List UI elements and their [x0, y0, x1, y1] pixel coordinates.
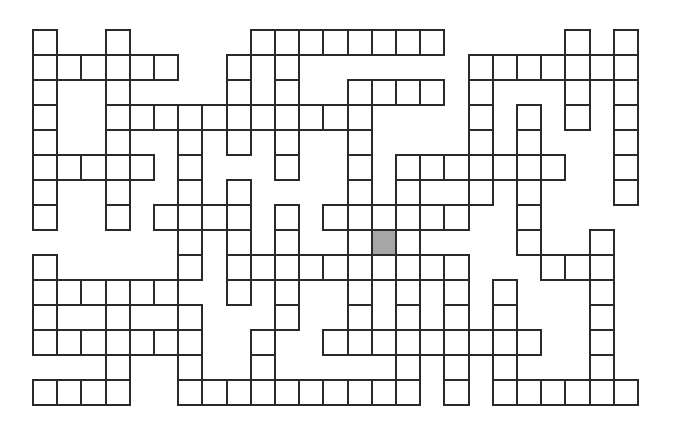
grid-cell[interactable] [613, 154, 639, 181]
grid-cell[interactable] [419, 29, 445, 56]
grid-cell[interactable] [395, 304, 421, 331]
grid-cell[interactable] [32, 379, 58, 406]
grid-cell[interactable] [274, 254, 300, 281]
grid-cell[interactable] [177, 229, 203, 256]
grid-cell[interactable] [347, 254, 373, 281]
grid-cell[interactable] [468, 129, 494, 156]
grid-cell[interactable] [443, 329, 469, 356]
grid-cell[interactable] [56, 379, 82, 406]
grid-cell[interactable] [443, 379, 469, 406]
grid-cell[interactable] [492, 154, 518, 181]
grid-cell[interactable] [298, 29, 324, 56]
grid-cell[interactable] [226, 104, 252, 131]
grid-cell[interactable] [226, 54, 252, 81]
grid-cell[interactable] [516, 129, 542, 156]
grid-cell[interactable] [105, 354, 131, 381]
grid-cell[interactable] [226, 279, 252, 306]
grid-cell[interactable] [105, 104, 131, 131]
grid-cell[interactable] [129, 329, 155, 356]
grid-cell[interactable] [201, 204, 227, 231]
grid-cell[interactable] [322, 204, 348, 231]
grid-cell[interactable] [177, 104, 203, 131]
grid-cell[interactable] [274, 104, 300, 131]
grid-cell[interactable] [540, 254, 566, 281]
grid-cell[interactable] [274, 79, 300, 106]
grid-cell[interactable] [419, 329, 445, 356]
grid-cell[interactable] [395, 254, 421, 281]
grid-cell[interactable] [177, 154, 203, 181]
grid-cell[interactable] [347, 79, 373, 106]
grid-cell[interactable] [516, 379, 542, 406]
grid-cell[interactable] [564, 379, 590, 406]
grid-cell[interactable] [371, 29, 397, 56]
grid-cell[interactable] [105, 204, 131, 231]
grid-cell[interactable] [274, 129, 300, 156]
grid-cell[interactable] [540, 379, 566, 406]
grid-cell[interactable] [250, 329, 276, 356]
grid-cell[interactable] [177, 304, 203, 331]
grid-cell[interactable] [492, 354, 518, 381]
grid-cell[interactable] [274, 29, 300, 56]
grid-cell[interactable] [32, 104, 58, 131]
grid-cell[interactable] [274, 229, 300, 256]
grid-cell[interactable] [153, 104, 179, 131]
grid-cell[interactable] [153, 204, 179, 231]
grid-cell[interactable] [613, 29, 639, 56]
grid-cell[interactable] [395, 154, 421, 181]
grid-cell[interactable] [56, 329, 82, 356]
grid-cell[interactable] [298, 379, 324, 406]
grid-cell[interactable] [80, 329, 106, 356]
grid-cell[interactable] [516, 229, 542, 256]
grid-cell[interactable] [564, 254, 590, 281]
grid-cell[interactable] [347, 104, 373, 131]
grid-cell[interactable] [226, 179, 252, 206]
grid-cell[interactable] [177, 379, 203, 406]
grid-cell[interactable] [371, 79, 397, 106]
grid-cell[interactable] [274, 279, 300, 306]
grid-cell[interactable] [105, 304, 131, 331]
grid-cell[interactable] [468, 79, 494, 106]
grid-cell[interactable] [32, 204, 58, 231]
grid-cell[interactable] [322, 329, 348, 356]
grid-cell[interactable] [395, 179, 421, 206]
grid-cell[interactable] [32, 79, 58, 106]
grid-cell[interactable] [564, 104, 590, 131]
grid-cell[interactable] [395, 204, 421, 231]
grid-cell[interactable] [613, 179, 639, 206]
grid-cell[interactable] [105, 154, 131, 181]
grid-cell[interactable] [395, 279, 421, 306]
grid-cell[interactable] [226, 129, 252, 156]
grid-cell[interactable] [250, 379, 276, 406]
grid-cell[interactable] [226, 229, 252, 256]
grid-cell[interactable] [32, 54, 58, 81]
grid-cell[interactable] [468, 179, 494, 206]
grid-cell[interactable] [540, 154, 566, 181]
grid-cell[interactable] [468, 104, 494, 131]
grid-cell[interactable] [80, 279, 106, 306]
grid-cell[interactable] [395, 79, 421, 106]
grid-cell[interactable] [32, 154, 58, 181]
grid-cell[interactable] [395, 29, 421, 56]
grid-cell[interactable] [395, 379, 421, 406]
grid-cell[interactable] [105, 79, 131, 106]
grid-cell[interactable] [347, 229, 373, 256]
grid-cell[interactable] [419, 154, 445, 181]
grid-cell[interactable] [129, 279, 155, 306]
grid-cell[interactable] [371, 379, 397, 406]
grid-cell[interactable] [80, 54, 106, 81]
grid-cell[interactable] [105, 379, 131, 406]
grid-cell[interactable] [32, 279, 58, 306]
grid-cell[interactable] [564, 54, 590, 81]
grid-cell[interactable] [274, 379, 300, 406]
grid-cell[interactable] [56, 154, 82, 181]
grid-cell[interactable] [177, 329, 203, 356]
grid-cell[interactable] [322, 379, 348, 406]
grid-cell[interactable] [347, 329, 373, 356]
grid-cell[interactable] [492, 279, 518, 306]
grid-cell[interactable] [371, 329, 397, 356]
grid-cell[interactable] [347, 279, 373, 306]
grid-cell[interactable] [250, 104, 276, 131]
grid-cell[interactable] [129, 54, 155, 81]
grid-cell[interactable] [226, 79, 252, 106]
grid-cell[interactable] [226, 204, 252, 231]
